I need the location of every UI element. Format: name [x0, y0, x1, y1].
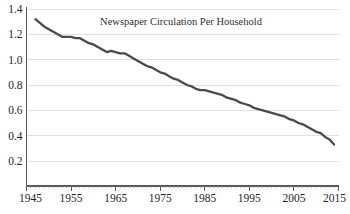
gridlines: [27, 9, 339, 161]
y-tick-label: 0.4: [8, 130, 23, 142]
x-axis-tick-labels: 19451955196519751985199520052015: [19, 192, 346, 204]
y-tick-label: 1.2: [8, 28, 23, 40]
axes: [27, 7, 339, 186]
x-tick-label: 1955: [60, 192, 83, 204]
y-tick-label: 0.8: [8, 79, 23, 91]
x-tick-label: 2015: [323, 192, 346, 204]
y-tick-label: 0.6: [8, 104, 23, 116]
x-tick-label: 2005: [282, 192, 305, 204]
chart-title: Newspaper Circulation Per Household: [100, 16, 263, 27]
x-tick-label: 1985: [193, 192, 216, 204]
x-tick-label: 1945: [19, 192, 42, 204]
y-tick-label: 1.0: [8, 54, 23, 66]
x-tick-label: 1995: [238, 192, 261, 204]
x-tick-label: 1975: [149, 192, 172, 204]
y-axis-tick-labels: 0.20.40.60.81.01.21.4: [8, 3, 23, 167]
chart-container: 0.20.40.60.81.01.21.4 194519551965197519…: [0, 0, 350, 214]
newspaper-circulation-line-chart: 0.20.40.60.81.01.21.4 194519551965197519…: [0, 0, 350, 214]
x-tick-label: 1965: [104, 192, 127, 204]
y-tick-label: 0.2: [8, 155, 23, 167]
data-series-line: [35, 19, 334, 144]
y-tick-label: 1.4: [8, 3, 23, 15]
